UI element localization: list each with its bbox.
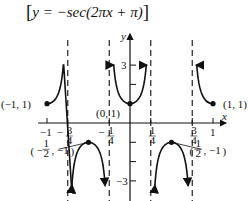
curve-branch <box>72 142 105 185</box>
paren-close: ) <box>223 145 227 158</box>
x-tick-denominator: 4 <box>108 134 114 146</box>
data-point <box>86 140 91 145</box>
x-axis-label: x <box>221 110 227 122</box>
data-point <box>210 101 215 106</box>
y-tick-label: 3 <box>121 59 127 71</box>
y-axis-label: y <box>120 30 126 42</box>
point-label: (0, 1) <box>96 107 120 120</box>
x-tick-label: −1 <box>40 126 52 138</box>
point-denominator: 2 <box>44 147 50 159</box>
x-tick-sign: − <box>57 126 63 138</box>
point-label: (−1, 1) <box>1 98 31 111</box>
x-tick-sign: − <box>98 126 104 138</box>
y-tick-label: −3 <box>116 175 128 187</box>
plot-area: xy−1−34−14143413−3(−1, 1)(0, 1)(1, 1)(−1… <box>0 0 248 201</box>
paren-open: ( <box>190 145 194 158</box>
point-y-value: , −1 <box>52 144 69 156</box>
paren-open: ( <box>31 145 35 158</box>
data-point <box>127 101 132 106</box>
x-tick-denominator: 4 <box>150 134 156 146</box>
curve-branch <box>196 65 213 104</box>
paren-close: ) <box>71 145 75 158</box>
curve-branch <box>155 142 188 185</box>
point-label: (1, 1) <box>223 98 247 111</box>
point-sign: − <box>37 144 43 156</box>
data-point <box>44 101 49 106</box>
point-y-value: , −1 <box>204 144 221 156</box>
x-tick-label: 1 <box>210 126 216 138</box>
point-denominator: 2 <box>196 147 202 159</box>
data-point <box>169 140 174 145</box>
